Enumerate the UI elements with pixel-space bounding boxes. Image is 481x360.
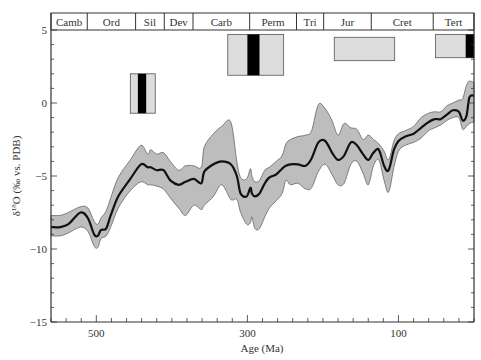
period-label-carb: Carb bbox=[211, 16, 233, 28]
period-label-jur: Jur bbox=[341, 16, 355, 28]
oxygen-isotope-chart: CambOrdSilDevCarbPermTriJurCretTert 50−5… bbox=[0, 0, 481, 360]
period-label-tert: Tert bbox=[445, 16, 463, 28]
x-tick-label: 300 bbox=[239, 327, 256, 339]
y-tick-label: −5 bbox=[35, 170, 47, 182]
uncertainty-band bbox=[51, 81, 474, 248]
x-tick-label: 500 bbox=[88, 327, 105, 339]
ordovician-silurian-glaciation-glacial-bar bbox=[138, 74, 146, 113]
y-tick-label: 0 bbox=[42, 97, 48, 109]
jurassic-cretaceous-cool-period-box bbox=[334, 37, 394, 60]
y-tick-label: 5 bbox=[42, 24, 48, 36]
period-label-dev: Dev bbox=[169, 16, 188, 28]
period-label-ord: Ord bbox=[103, 16, 121, 28]
tertiary-glaciation-glacial-bar bbox=[466, 34, 474, 57]
y-axis-title: δ18O (‰ vs. PDB) bbox=[10, 135, 23, 216]
x-axis-title: Age (Ma) bbox=[240, 342, 283, 355]
y-axis-title-rest: O (‰ vs. PDB) bbox=[10, 135, 23, 204]
period-label-cret: Cret bbox=[393, 16, 412, 28]
period-label-perm: Perm bbox=[261, 16, 285, 28]
glaciation-boxes bbox=[130, 34, 474, 113]
period-label-sil: Sil bbox=[144, 16, 156, 28]
series-layer bbox=[51, 81, 474, 248]
x-tick-label: 100 bbox=[390, 327, 407, 339]
y-tick-label: −15 bbox=[30, 316, 48, 328]
period-label-camb: Camb bbox=[56, 16, 83, 28]
carboniferous-permian-glaciation-glacial-bar bbox=[247, 34, 259, 75]
geologic-period-band: CambOrdSilDevCarbPermTriJurCretTert bbox=[51, 13, 474, 30]
y-tick-label: −10 bbox=[30, 243, 48, 255]
period-label-tri: Tri bbox=[304, 16, 317, 28]
